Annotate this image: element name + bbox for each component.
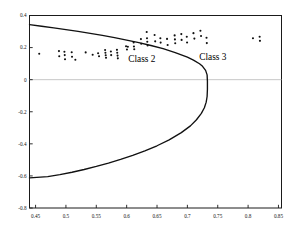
data-point: [154, 34, 156, 36]
data-point: [259, 36, 261, 38]
y-tick-label: -0.8: [18, 205, 27, 211]
data-point: [125, 45, 127, 47]
data-point: [140, 38, 142, 40]
data-point: [71, 56, 73, 58]
data-point: [174, 42, 176, 44]
data-point: [174, 34, 176, 36]
x-tick-label: 0.6: [123, 213, 130, 219]
data-point: [154, 40, 156, 42]
data-point: [105, 57, 107, 59]
data-point: [104, 52, 106, 54]
y-axis-tick-labels: 0.40.20-0.2-0.4-0.6-0.8: [18, 12, 27, 211]
y-tick-label: -0.4: [18, 141, 27, 147]
data-point: [63, 51, 65, 53]
class-annotation-label: Class 2: [128, 54, 155, 64]
data-point: [166, 38, 168, 40]
data-point: [160, 42, 162, 44]
data-point: [105, 54, 107, 56]
data-point: [181, 39, 183, 41]
x-tick-label: 0.5: [63, 213, 70, 219]
decision-boundary-parabola: [30, 25, 208, 178]
data-point: [64, 58, 66, 60]
y-tick-label: -0.6: [18, 173, 27, 179]
data-point: [174, 38, 176, 40]
data-point: [259, 40, 261, 42]
data-point: [97, 52, 99, 54]
x-tick-label: 0.65: [152, 213, 161, 219]
decision-boundary-curve: [30, 25, 208, 178]
x-tick-label: 0.45: [31, 213, 40, 219]
data-point: [205, 37, 207, 39]
data-point: [133, 41, 135, 43]
data-point: [74, 59, 76, 61]
x-axis-tick-labels: 0.450.50.550.60.650.70.750.80.85: [31, 213, 283, 219]
data-point: [64, 54, 66, 56]
data-point: [206, 42, 208, 44]
plot-frame: [30, 16, 282, 209]
y-tick-label: 0: [24, 77, 27, 83]
data-point: [110, 50, 112, 52]
data-point: [186, 36, 188, 38]
data-point: [117, 57, 119, 59]
data-point: [167, 44, 169, 46]
data-point: [193, 38, 195, 40]
scatter-plot-svg: 0.450.50.550.60.650.70.750.80.85 0.40.20…: [0, 0, 294, 236]
data-point: [186, 41, 188, 43]
data-point: [85, 51, 87, 53]
data-point: [117, 55, 119, 57]
x-tick-label: 0.85: [274, 213, 283, 219]
y-tick-label: -0.2: [18, 109, 27, 115]
data-point: [58, 55, 60, 57]
data-point: [199, 30, 201, 32]
data-point: [140, 43, 142, 45]
data-point: [133, 48, 135, 50]
data-point: [200, 35, 202, 37]
data-point: [159, 37, 161, 39]
data-point: [110, 54, 112, 56]
x-tick-label: 0.55: [92, 213, 101, 219]
data-point: [71, 51, 73, 53]
data-point: [126, 48, 128, 50]
chart-figure: 0.450.50.550.60.650.70.750.80.85 0.40.20…: [0, 0, 294, 236]
x-tick-label: 0.75: [213, 213, 222, 219]
data-point: [146, 37, 148, 39]
data-point: [146, 31, 148, 33]
x-tick-label: 0.8: [245, 213, 252, 219]
data-point: [104, 49, 106, 51]
data-point: [127, 46, 129, 48]
data-point: [116, 52, 118, 54]
class-annotation-label: Class 3: [199, 52, 226, 62]
data-point: [116, 49, 118, 51]
data-point: [180, 33, 182, 35]
data-point: [38, 53, 40, 55]
data-point: [146, 41, 148, 43]
data-point: [92, 54, 94, 56]
data-point: [58, 50, 60, 52]
data-point: [98, 55, 100, 57]
data-point: [133, 45, 135, 47]
data-point: [147, 44, 149, 46]
data-point: [192, 32, 194, 34]
axes-frame: [30, 16, 282, 209]
data-point: [252, 37, 254, 39]
y-tick-label: 0.2: [20, 44, 27, 50]
y-tick-label: 0.4: [20, 12, 27, 18]
x-tick-label: 0.7: [184, 213, 191, 219]
